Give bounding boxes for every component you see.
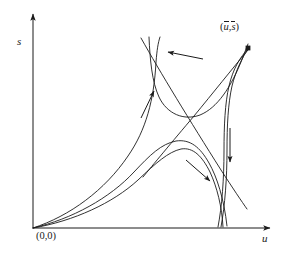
- equilibrium-label-u-bar: u: [224, 22, 229, 33]
- flow-direction-arrows: [141, 52, 230, 181]
- overbar-s: [231, 21, 235, 22]
- arrow-upper-leftward: [168, 52, 203, 59]
- phase-portrait-canvas: [0, 0, 283, 269]
- origin-label: (0,0): [36, 231, 56, 242]
- equilibrium-label-s-bar: s: [231, 22, 235, 33]
- phase-portrait-figure: s u (0,0) (u,s): [0, 0, 283, 269]
- overbar-u: [224, 21, 229, 22]
- u-axis-label: u: [262, 233, 268, 244]
- equilibrium-point-marker: [246, 46, 251, 51]
- equilibrium-label-s: s: [231, 21, 235, 32]
- equilibrium-label-close: ): [235, 21, 239, 32]
- axes-group: [33, 14, 270, 228]
- arrow-lower-rightward: [186, 160, 210, 181]
- origin-trajectory-upper: [33, 37, 160, 228]
- equilibrium-label-u: u: [224, 21, 229, 32]
- s-axis-label: s: [17, 36, 21, 47]
- stable-manifold: [141, 38, 247, 209]
- equilibrium-label: (u,s): [220, 22, 239, 33]
- trajectory-curves: [33, 37, 248, 228]
